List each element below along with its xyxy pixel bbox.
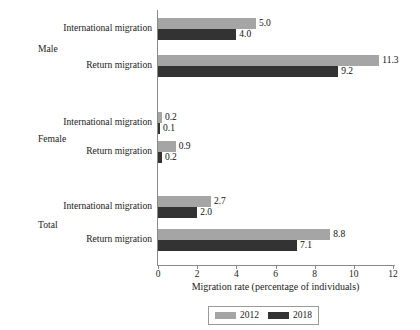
category-label-2-return-migration: Return migration — [86, 233, 152, 244]
category-label-0-return-migration: Return migration — [86, 59, 152, 70]
legend-item-2012[interactable]: 2012 — [215, 310, 259, 321]
legend: 2012 2018 — [208, 306, 319, 325]
group-label-total: Total — [38, 219, 58, 230]
bar-value-2018-row-2: 0.1 — [163, 123, 175, 134]
bar-2018-row-4[interactable] — [158, 207, 197, 218]
bar-value-2018-row-1: 9.2 — [341, 66, 353, 77]
bar-value-2012-row-1: 11.3 — [382, 55, 398, 66]
migration-rate-bar-chart: 024681012 5.04.011.39.20.20.10.90.22.72.… — [0, 0, 420, 330]
category-label-0-international-migration: International migration — [63, 22, 152, 33]
x-tick-label-4: 4 — [234, 269, 239, 280]
bar-2012-row-4[interactable] — [158, 196, 211, 207]
bar-2018-row-3[interactable] — [158, 152, 162, 163]
bar-value-2012-row-3: 0.9 — [179, 141, 191, 152]
legend-swatch-2018 — [268, 312, 289, 319]
bar-value-2012-row-0: 5.0 — [259, 18, 271, 29]
x-tick-label-12: 12 — [388, 269, 398, 280]
category-label-2-international-migration: International migration — [63, 200, 152, 211]
category-label-1-international-migration: International migration — [63, 116, 152, 127]
bar-2018-row-2[interactable] — [158, 123, 160, 134]
bar-2012-row-3[interactable] — [158, 141, 176, 152]
bar-2018-row-1[interactable] — [158, 66, 338, 77]
legend-swatch-2012 — [215, 312, 236, 319]
x-tick-label-6: 6 — [273, 269, 278, 280]
bar-2012-row-1[interactable] — [158, 55, 379, 66]
category-label-1-return-migration: Return migration — [86, 145, 152, 156]
bar-2012-row-5[interactable] — [158, 229, 330, 240]
legend-label-2012: 2012 — [240, 310, 259, 321]
x-tick-label-8: 8 — [312, 269, 317, 280]
bar-2012-row-0[interactable] — [158, 18, 256, 29]
bar-2018-row-5[interactable] — [158, 240, 297, 251]
bar-2018-row-0[interactable] — [158, 29, 236, 40]
legend-item-2018[interactable]: 2018 — [268, 310, 312, 321]
bar-2012-row-2[interactable] — [158, 112, 162, 123]
bar-value-2018-row-4: 2.0 — [200, 207, 212, 218]
group-label-male: Male — [38, 43, 58, 54]
legend-label-2018: 2018 — [293, 310, 312, 321]
group-label-female: Female — [38, 133, 66, 144]
bar-value-2012-row-4: 2.7 — [214, 196, 226, 207]
x-tick-label-10: 10 — [349, 269, 359, 280]
bar-value-2018-row-5: 7.1 — [300, 240, 312, 251]
x-axis-title: Migration rate (percentage of individual… — [158, 281, 393, 293]
bar-value-2018-row-3: 0.2 — [165, 152, 177, 163]
bar-value-2012-row-2: 0.2 — [165, 112, 177, 123]
x-tick-label-0: 0 — [156, 269, 161, 280]
y-axis-line — [157, 10, 158, 266]
bar-value-2018-row-0: 4.0 — [239, 29, 251, 40]
x-tick-label-2: 2 — [195, 269, 200, 280]
bar-value-2012-row-5: 8.8 — [333, 229, 345, 240]
